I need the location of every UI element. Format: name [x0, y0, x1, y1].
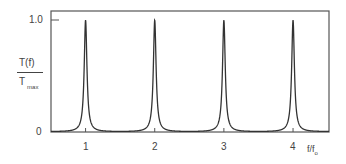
- y-axis-label-denominator: Tmax: [19, 77, 36, 87]
- plot-frame: [51, 11, 329, 132]
- x-axis-label-main: f/f: [307, 144, 315, 154]
- y-axis-den-sub: max: [27, 84, 38, 90]
- transmission-curve: [51, 20, 329, 131]
- x-axis-label: f/fo: [307, 145, 318, 154]
- x-tick-label-1: 1: [83, 142, 89, 152]
- y-axis-den-main: T: [19, 76, 25, 87]
- x-tick-label-4: 4: [290, 142, 296, 152]
- y-tick-label-top: 1.0: [29, 15, 43, 25]
- y-axis-label-numerator: T(f): [19, 58, 35, 68]
- y-tick-label-bottom: 0: [36, 127, 42, 137]
- x-tick-label-3: 3: [221, 142, 227, 152]
- x-axis-label-sub: o: [315, 150, 318, 156]
- y-axis-fraction-bar: [17, 72, 43, 73]
- chart-canvas: [0, 0, 346, 164]
- x-tick-label-2: 2: [152, 142, 158, 152]
